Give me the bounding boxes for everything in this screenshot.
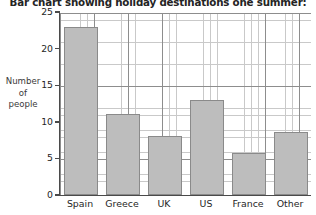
y-tick-label: 10	[41, 116, 53, 127]
plot-area: 0510152025	[59, 13, 311, 196]
x-label-other: Other	[269, 198, 311, 209]
x-label-greece: Greece	[101, 198, 143, 209]
y-tick-label: 20	[41, 43, 53, 54]
y-axis-label-line-1: Number	[1, 76, 45, 88]
y-axis-label-line-2: of	[1, 88, 45, 100]
bar-other	[274, 132, 308, 195]
bar-chart-figure: Bar chart showing holiday destinations o…	[0, 0, 316, 215]
bar-greece	[106, 114, 140, 195]
y-tick-label: 5	[47, 152, 53, 163]
bar-us	[190, 100, 224, 195]
bar-uk	[148, 136, 182, 195]
y-tick-label: 25	[41, 6, 53, 17]
x-label-uk: UK	[143, 198, 185, 209]
x-label-france: France	[227, 198, 269, 209]
y-tick-label: 15	[41, 79, 53, 90]
bar-series	[60, 13, 311, 195]
bar-france	[232, 153, 266, 195]
x-label-us: US	[185, 198, 227, 209]
x-label-spain: Spain	[59, 198, 101, 209]
y-axis-label: Number of people	[1, 76, 45, 111]
y-axis-label-line-3: people	[1, 99, 45, 111]
y-tick-label: 0	[47, 189, 53, 200]
bar-spain	[64, 27, 98, 195]
x-axis-labels: SpainGreeceUKUSFranceOther	[59, 198, 315, 214]
